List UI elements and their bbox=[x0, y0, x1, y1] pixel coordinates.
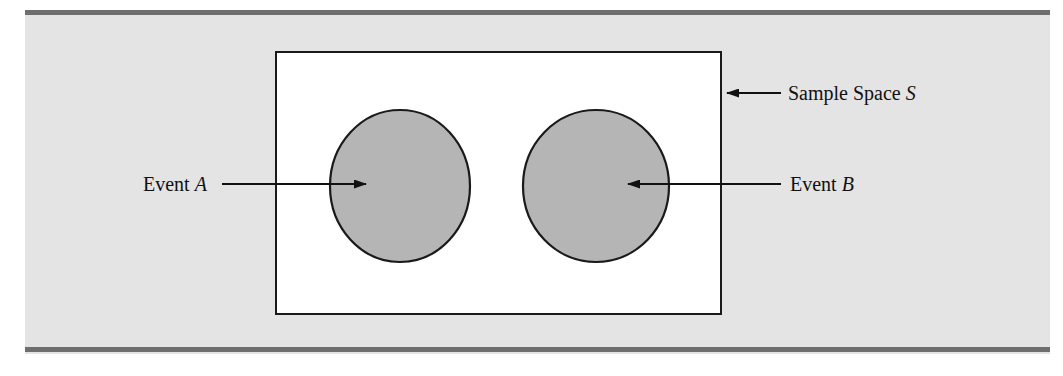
sample-space-label-symbol: S bbox=[906, 82, 916, 104]
event-b-circle bbox=[523, 110, 669, 262]
event-a-label-text: Event bbox=[143, 173, 195, 195]
event-b-label-symbol: B bbox=[842, 173, 854, 195]
sample-space-label-text: Sample Space bbox=[788, 82, 906, 104]
event-b-label: Event B bbox=[790, 174, 854, 194]
event-a-label-symbol: A bbox=[195, 173, 207, 195]
event-b-label-text: Event bbox=[790, 173, 842, 195]
sample-space-label: Sample Space S bbox=[788, 83, 916, 103]
event-a-circle bbox=[330, 110, 470, 262]
event-a-label: Event A bbox=[143, 174, 207, 194]
figure-page: Sample Space S Event A Event B bbox=[0, 0, 1063, 376]
